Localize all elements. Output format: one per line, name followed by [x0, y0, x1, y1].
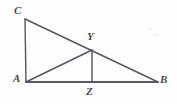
segment-CA [25, 19, 26, 82]
vertex-label-B: B [160, 74, 167, 85]
geometry-figure: C A B Y Z [0, 0, 177, 104]
vertex-label-Z: Z [86, 86, 93, 97]
vertex-label-Y: Y [87, 31, 94, 42]
scan-artifact [148, 27, 152, 30]
vertex-label-A: A [13, 73, 20, 84]
scan-artifact [155, 33, 158, 36]
segment-AY [26, 50, 92, 82]
vertex-label-C: C [14, 5, 21, 16]
